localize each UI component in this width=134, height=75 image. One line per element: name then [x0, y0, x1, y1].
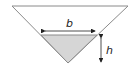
width-label: b	[66, 17, 73, 30]
triangle-diagram: b h	[0, 0, 134, 75]
shaded-triangle	[41, 35, 97, 63]
height-label: h	[106, 44, 113, 57]
